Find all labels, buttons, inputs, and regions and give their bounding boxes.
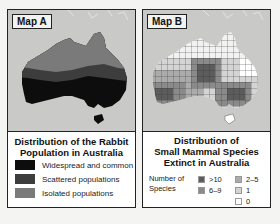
map-b-badge: Map B <box>147 14 187 29</box>
map-a-title: Distribution of the Rabbit Population in… <box>8 136 135 158</box>
legend-item-widespread: Widespread and common <box>15 160 133 170</box>
legend-item-6-9: 6–9 <box>198 186 222 195</box>
legend-title: Number of Species <box>149 174 189 194</box>
legend-swatch-6-9 <box>198 187 205 194</box>
legend-swatch-1 <box>235 187 242 194</box>
legend-swatch-widespread <box>15 160 35 170</box>
map-b-panel: Map B Distribution of Small Mammal Speci… <box>142 9 271 208</box>
map-a-badge: Map A <box>12 14 52 29</box>
legend-item-isolated: Isolated populations <box>15 188 113 198</box>
legend-swatch-scattered <box>15 174 35 184</box>
legend-swatch-2-5 <box>235 176 242 183</box>
legend-item-0: 0 <box>235 197 250 206</box>
legend-item-gt10: >10 <box>198 175 222 184</box>
legend-swatch-isolated <box>15 188 35 198</box>
legend-swatch-gt10 <box>198 176 205 183</box>
legend-item-scattered: Scattered populations <box>15 174 119 184</box>
map-a-rabbit-distribution: Map A <box>8 10 135 132</box>
map-a-panel: Map A Distribution of the Rabbit Populat… <box>7 9 136 208</box>
map-b-extinct-mammals: Map B <box>143 10 270 132</box>
legend-item-2-5: 2–5 <box>235 175 259 184</box>
legend-item-1: 1 <box>235 186 250 195</box>
map-b-title: Distribution of Small Mammal Species Ext… <box>143 135 270 168</box>
legend-swatch-0 <box>235 198 242 205</box>
